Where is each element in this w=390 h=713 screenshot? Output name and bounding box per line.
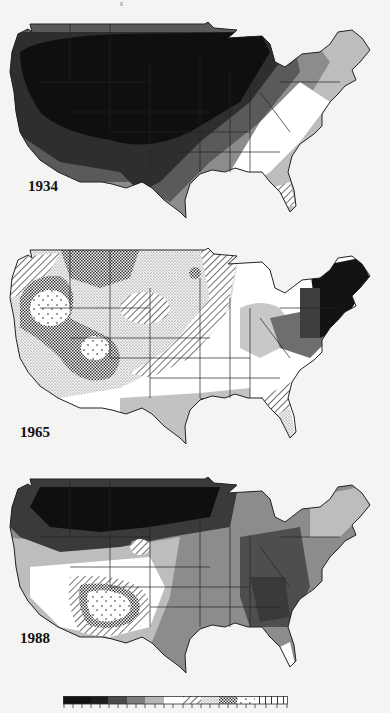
cropped-caption-fragment: g	[120, 0, 123, 6]
us-map-1934	[0, 20, 390, 225]
year-label-1934: 1934	[28, 178, 58, 195]
year-label-1988: 1988	[20, 630, 50, 647]
us-map-1988	[0, 477, 390, 682]
legend-ticks	[64, 704, 287, 708]
map-panel-1934: 1934	[0, 20, 390, 225]
map-panel-1988: 1988	[0, 477, 390, 682]
legend-swatches	[63, 696, 288, 710]
year-label-1965: 1965	[20, 424, 50, 441]
us-map-1965	[0, 248, 390, 453]
map-panel-1965: 1965	[0, 248, 390, 453]
legend-bar	[63, 696, 288, 710]
